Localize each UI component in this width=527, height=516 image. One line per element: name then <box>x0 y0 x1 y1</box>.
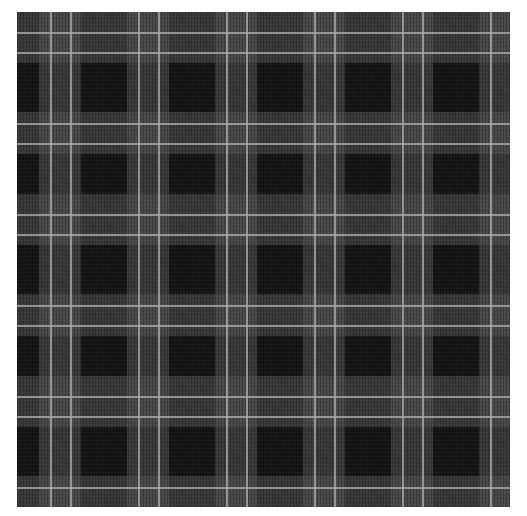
horizontal-pinstripes <box>17 12 510 507</box>
plaid-fabric-swatch <box>17 12 510 507</box>
